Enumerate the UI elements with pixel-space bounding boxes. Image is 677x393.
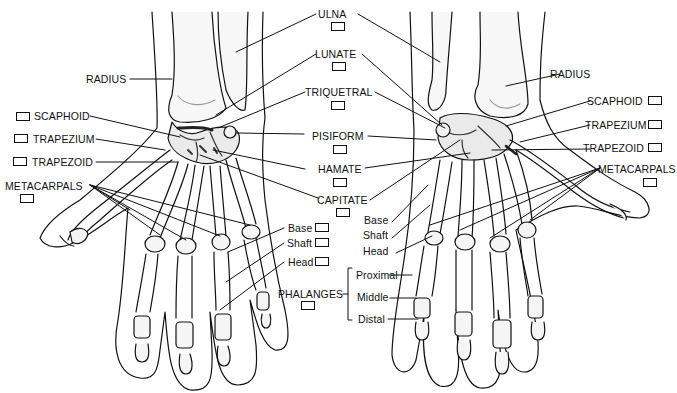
label-base: Base bbox=[288, 222, 312, 234]
label-lunate: LUNATE bbox=[315, 48, 356, 60]
label-triquetral: TRIQUETRAL bbox=[305, 86, 373, 98]
label-pisiform: PISIFORM bbox=[312, 130, 364, 142]
label-head: Head bbox=[288, 256, 314, 268]
label-base-right: Base bbox=[364, 214, 388, 226]
left-hand-drawing bbox=[40, 12, 288, 390]
label-metacarpals-left: METACARPALS bbox=[5, 180, 83, 192]
answer-box-scaphoid-right[interactable] bbox=[648, 96, 662, 105]
label-trapezoid-left: TRAPEZOID bbox=[32, 156, 93, 168]
answer-box-trapezoid-right[interactable] bbox=[648, 143, 662, 152]
answer-box-metacarpals-right[interactable] bbox=[643, 178, 657, 187]
answer-box-pisiform[interactable] bbox=[333, 145, 347, 154]
label-trapezium-right: TRAPEZIUM bbox=[585, 119, 647, 131]
label-hamate: HAMATE bbox=[318, 163, 362, 175]
label-metacarpals-right: METACARPALS bbox=[598, 163, 676, 175]
answer-box-capitate[interactable] bbox=[336, 208, 350, 217]
answer-box-scaphoid-left[interactable] bbox=[16, 112, 30, 121]
label-shaft-right: Shaft bbox=[363, 229, 388, 241]
label-capitate: CAPITATE bbox=[317, 194, 368, 206]
label-proximal: Proximal bbox=[356, 269, 398, 281]
answer-box-trapezium-left[interactable] bbox=[14, 134, 28, 143]
label-trapezium-left: TRAPEZIUM bbox=[33, 133, 95, 145]
right-hand-drawing bbox=[392, 12, 649, 388]
label-shaft: Shaft bbox=[287, 237, 312, 249]
label-scaphoid-right: SCAPHOID bbox=[587, 95, 643, 107]
answer-box-head[interactable] bbox=[315, 257, 329, 266]
answer-box-triquetral[interactable] bbox=[331, 101, 345, 110]
answer-box-hamate[interactable] bbox=[333, 178, 347, 187]
label-middle: Middle bbox=[357, 291, 389, 303]
hand-bones-diagram: ULNA LUNATE TRIQUETRAL PISIFORM HAMATE C… bbox=[0, 0, 677, 393]
label-scaphoid-left: SCAPHOID bbox=[34, 110, 90, 122]
label-head-right: Head bbox=[363, 245, 389, 257]
answer-box-ulna[interactable] bbox=[331, 22, 345, 31]
answer-box-trapezium-right[interactable] bbox=[648, 120, 662, 129]
answer-box-lunate[interactable] bbox=[332, 62, 346, 71]
label-phalanges: PHALANGES bbox=[278, 288, 343, 300]
answer-box-base[interactable] bbox=[315, 223, 329, 232]
answer-box-trapezoid-left[interactable] bbox=[13, 157, 27, 166]
label-distal: Distal bbox=[358, 313, 385, 325]
answer-box-metacarpals-left[interactable] bbox=[20, 194, 34, 203]
answer-box-shaft[interactable] bbox=[315, 238, 329, 247]
label-ulna: ULNA bbox=[318, 8, 346, 20]
label-trapezoid-right: TRAPEZOID bbox=[583, 142, 644, 154]
label-radius-left: RADIUS bbox=[86, 73, 126, 85]
label-radius-right: RADIUS bbox=[550, 68, 590, 80]
answer-box-phalanges[interactable] bbox=[301, 301, 315, 310]
